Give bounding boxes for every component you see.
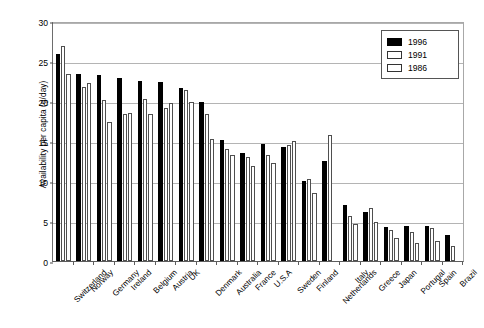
x-label-cell: UK <box>176 266 197 328</box>
x-tick-mark <box>155 261 156 265</box>
legend-label-1996: 1996 <box>408 37 427 47</box>
x-tick-mark <box>298 261 299 265</box>
x-tick-mark <box>73 261 74 265</box>
bar <box>66 74 70 261</box>
x-label-cell: Germany <box>93 266 114 328</box>
bar <box>348 216 352 261</box>
bar <box>307 179 311 261</box>
bar <box>312 193 316 261</box>
bar <box>240 153 244 261</box>
x-label-cell: France <box>237 266 258 328</box>
y-tick-label: 15 <box>38 138 48 148</box>
bar-group <box>156 23 177 261</box>
bar <box>164 108 168 261</box>
x-tick-mark <box>442 261 443 265</box>
bar <box>246 157 250 261</box>
x-label-cell: Norway <box>73 266 94 328</box>
bar-group <box>197 23 218 261</box>
x-tick-mark <box>134 261 135 265</box>
bar <box>343 205 347 261</box>
bar-group <box>340 23 361 261</box>
y-tick-label: 5 <box>43 218 48 228</box>
bar <box>128 113 132 261</box>
bar-group <box>320 23 341 261</box>
bar-group <box>135 23 156 261</box>
bar <box>384 227 388 261</box>
bar <box>102 100 106 261</box>
bar <box>148 114 152 261</box>
x-label-cell: Denmark <box>196 266 217 328</box>
x-label-cell: Finland <box>299 266 320 328</box>
bar-group <box>258 23 279 261</box>
bar <box>205 114 209 261</box>
x-tick-mark <box>278 261 279 265</box>
bar <box>220 140 224 261</box>
y-tick-label: 25 <box>38 58 48 68</box>
bar <box>117 78 121 261</box>
legend: 1996 1991 1986 <box>381 30 459 79</box>
bar <box>404 226 408 261</box>
x-label-cell: Belgium <box>134 266 155 328</box>
bar <box>143 99 147 261</box>
bar <box>97 75 101 261</box>
bar <box>199 102 203 261</box>
legend-swatch-1996 <box>387 38 402 46</box>
bar <box>251 166 255 261</box>
x-tick-mark <box>196 261 197 265</box>
bar <box>287 145 291 261</box>
x-tick-mark <box>360 261 361 265</box>
x-label-cell: Greece <box>361 266 382 328</box>
bar-group <box>361 23 382 261</box>
bar <box>87 83 91 261</box>
bar-chart-figure: Availability per capita (g/day) 05101520… <box>0 0 484 328</box>
legend-item-1996: 1996 <box>387 35 453 48</box>
y-tick-label: 20 <box>38 98 48 108</box>
x-label-cell: Ireland <box>114 266 135 328</box>
x-label-cell: Austria <box>155 266 176 328</box>
bar <box>107 122 111 261</box>
x-tick-mark <box>93 261 94 265</box>
bar <box>230 155 234 261</box>
bar-group <box>299 23 320 261</box>
bar <box>322 161 326 261</box>
x-tick-label: Brazil <box>458 268 479 289</box>
bar <box>430 228 434 261</box>
x-label-cell: Netherlands <box>320 266 341 328</box>
bar <box>261 144 265 261</box>
bar <box>179 88 183 261</box>
x-label-cell: Switzerland <box>52 266 73 328</box>
x-tick-mark <box>175 261 176 265</box>
legend-item-1991: 1991 <box>387 48 453 61</box>
bar <box>82 87 86 261</box>
x-tick-mark <box>319 261 320 265</box>
bar <box>76 74 80 261</box>
bar-group <box>279 23 300 261</box>
bar <box>281 147 285 261</box>
bar <box>328 135 332 261</box>
x-tick-mark <box>380 261 381 265</box>
bar <box>266 155 270 261</box>
bar <box>271 163 275 261</box>
bar <box>189 102 193 261</box>
bar <box>56 54 60 261</box>
x-label-cell: Sweden <box>279 266 300 328</box>
bar <box>138 81 142 261</box>
bar <box>445 235 449 261</box>
y-tick-label: 0 <box>43 258 48 268</box>
x-tick-mark <box>216 261 217 265</box>
x-label-cell: Spain <box>423 266 444 328</box>
y-tick-label: 30 <box>38 18 48 28</box>
x-label-cell: Italy <box>340 266 361 328</box>
bar-group <box>176 23 197 261</box>
x-tick-mark <box>462 261 463 265</box>
bar-group <box>217 23 238 261</box>
y-tick-label: 10 <box>38 178 48 188</box>
bar <box>415 243 419 261</box>
x-label-cell: U.S.A <box>258 266 279 328</box>
bar-group <box>238 23 259 261</box>
bar <box>363 212 367 261</box>
bar <box>123 114 127 261</box>
bar-group <box>53 23 74 261</box>
bar <box>374 222 378 261</box>
bar <box>225 149 229 261</box>
